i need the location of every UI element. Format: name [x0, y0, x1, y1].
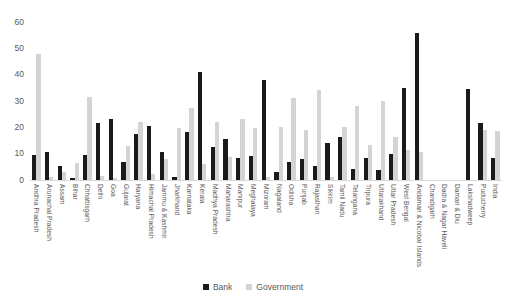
bar-bank — [325, 143, 329, 180]
x-tick-label: Dadra & Nagar Haveli — [441, 184, 448, 249]
bar-government — [253, 128, 257, 180]
x-label-cell: Mizoram — [260, 182, 273, 278]
x-label-cell: Chandigarh — [425, 182, 438, 278]
x-label-cell: Chhattisgarh — [81, 182, 94, 278]
bar-group — [30, 22, 43, 180]
x-tick-label: Sikkim — [326, 184, 333, 204]
bar-group — [272, 22, 285, 180]
bar-group — [336, 22, 349, 180]
x-label-cell: Kerala — [196, 182, 209, 278]
bar-government — [381, 101, 385, 180]
legend-item[interactable]: Government — [246, 283, 303, 292]
bar-government — [75, 163, 79, 180]
bar-bank — [109, 119, 113, 180]
x-tick-label: Goa — [110, 184, 117, 197]
x-tick-label: Delhi — [97, 184, 104, 199]
bar-government — [215, 122, 219, 180]
bar-group — [285, 22, 298, 180]
x-label-cell: Arunachal Pradesh — [43, 182, 56, 278]
x-label-cell: Dadra & Nagar Haveli — [438, 182, 451, 278]
bar-government — [202, 164, 206, 180]
x-tick-label: Manipur — [237, 184, 244, 208]
bar-government — [342, 127, 346, 180]
bar-government — [240, 119, 244, 180]
bar-group — [68, 22, 81, 180]
legend-swatch-icon — [246, 284, 252, 290]
bar-group — [489, 22, 502, 180]
x-tick-label: Kerala — [199, 184, 206, 203]
legend-swatch-icon — [203, 284, 209, 290]
bar-government — [49, 177, 53, 180]
x-tick-label: Karnataka — [186, 184, 193, 215]
y-tick-label: 50 — [15, 44, 24, 53]
bar-group — [170, 22, 183, 180]
x-label-cell: Manipur — [234, 182, 247, 278]
bar-group — [464, 22, 477, 180]
bar-group — [311, 22, 324, 180]
bar-government — [36, 54, 40, 180]
bar-government — [279, 127, 283, 180]
bar-government — [368, 145, 372, 180]
bar-government — [177, 128, 181, 180]
x-label-cell: Meghalaya — [247, 182, 260, 278]
x-label-cell: West Bengal — [400, 182, 413, 278]
bar-group — [323, 22, 336, 180]
bar-government — [228, 157, 232, 180]
x-label-cell: Andhra Pradesh — [30, 182, 43, 278]
x-label-cell: Goa — [107, 182, 120, 278]
bar-government — [189, 108, 193, 180]
bar-group — [298, 22, 311, 180]
x-tick-label: Lakshadweep — [467, 184, 474, 225]
x-label-cell: Uttar Pradesh — [387, 182, 400, 278]
bar-group — [94, 22, 107, 180]
x-tick-label: Punjab — [301, 184, 308, 205]
bar-group — [451, 22, 464, 180]
legend-label: Government — [256, 283, 303, 292]
bar-group — [387, 22, 400, 180]
bar-government — [304, 130, 308, 180]
x-tick-label: Tripura — [365, 184, 372, 205]
x-label-cell: Lakshadweep — [464, 182, 477, 278]
bar-government — [138, 122, 142, 180]
bar-group — [43, 22, 56, 180]
bar-group — [234, 22, 247, 180]
x-label-cell: Punjab — [298, 182, 311, 278]
x-label-cell: Rajasthan — [311, 182, 324, 278]
bar-government — [483, 130, 487, 180]
legend-label: Bank — [213, 283, 232, 292]
x-label-cell: Daman & Diu — [451, 182, 464, 278]
bar-government — [393, 137, 397, 180]
x-tick-label: Rajasthan — [314, 184, 321, 214]
x-tick-label: Uttar Pradesh — [390, 184, 397, 225]
legend-item[interactable]: Bank — [203, 283, 232, 292]
y-tick-label: 30 — [15, 97, 24, 106]
x-tick-label: Telangana — [352, 184, 359, 215]
x-label-cell: Madhya Pradesh — [209, 182, 222, 278]
chart-legend: BankGovernment — [0, 283, 506, 292]
x-label-cell: Gujarat — [119, 182, 132, 278]
bar-group — [400, 22, 413, 180]
x-tick-label: India — [492, 184, 499, 199]
bar-government — [291, 98, 295, 180]
bar-group — [425, 22, 438, 180]
bar-government — [100, 176, 104, 180]
bar-government — [113, 178, 117, 180]
bars-layer — [30, 22, 502, 180]
x-tick-label: Maharashtra — [224, 184, 231, 222]
x-label-cell: Delhi — [94, 182, 107, 278]
x-tick-label: Assam — [59, 184, 66, 204]
bar-government — [406, 150, 410, 180]
bar-bank — [262, 80, 266, 180]
bar-government — [62, 172, 66, 180]
x-label-cell: Sikkim — [323, 182, 336, 278]
bar-government — [330, 177, 334, 180]
bar-group — [476, 22, 489, 180]
bar-group — [158, 22, 171, 180]
x-label-cell: Maharashtra — [221, 182, 234, 278]
x-tick-label: Odisha — [288, 184, 295, 205]
x-tick-label: Andaman & Nicobar Islands — [416, 184, 423, 267]
x-tick-label: Tamil Nadu — [339, 184, 346, 217]
x-axis-labels: Andhra PradeshArunachal PradeshAssamBiha… — [30, 182, 502, 278]
bar-group — [81, 22, 94, 180]
bar-government — [126, 146, 130, 180]
